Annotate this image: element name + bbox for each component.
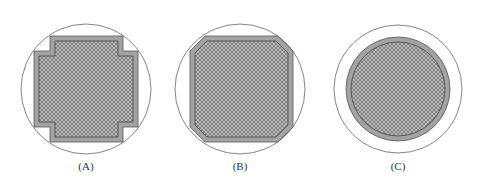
panel-label-b: (B) bbox=[233, 160, 248, 172]
panel-label-c: (C) bbox=[391, 160, 406, 172]
panel-c bbox=[334, 25, 462, 153]
panel-a bbox=[21, 24, 151, 154]
hatched-die-c bbox=[351, 42, 445, 136]
panel-b bbox=[175, 24, 305, 154]
hatched-die-b bbox=[195, 41, 288, 137]
panel-label-a: (A) bbox=[78, 160, 93, 172]
